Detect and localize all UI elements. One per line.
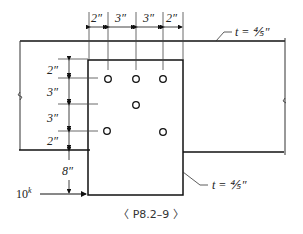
- top-dim-2: 3″: [114, 11, 127, 25]
- thickness-label-top: t = ⅘″: [235, 25, 270, 39]
- bolts: [104, 76, 167, 136]
- top-dim-4: 2″: [166, 11, 178, 25]
- top-dim-1: 2″: [91, 11, 103, 25]
- load-label: 10k: [16, 186, 32, 201]
- connection-diagram: 2″ 3″ 3″ 2″ 2″ 3″ 3″ 2″ 8″ 10k t = ⅘″ t …: [0, 0, 303, 234]
- left-dim-1: 2″: [47, 63, 59, 77]
- thickness-leader-top: [216, 32, 232, 41]
- figure-caption: 〈 P8.2–9 〉: [118, 208, 184, 221]
- thickness-leader-gusset: [183, 172, 208, 185]
- left-dim-2: 3″: [46, 85, 59, 99]
- gusset-plate: [88, 60, 183, 195]
- top-dim-3: 3″: [142, 11, 155, 25]
- right-member: [90, 38, 286, 155]
- left-dimension-lines: [58, 59, 98, 131]
- left-dim-3: 3″: [46, 111, 59, 125]
- left-dim-4: 2″: [47, 134, 59, 148]
- load-offset-dim: 8″: [62, 164, 74, 178]
- thickness-label-gusset: t = ⅘″: [212, 178, 247, 192]
